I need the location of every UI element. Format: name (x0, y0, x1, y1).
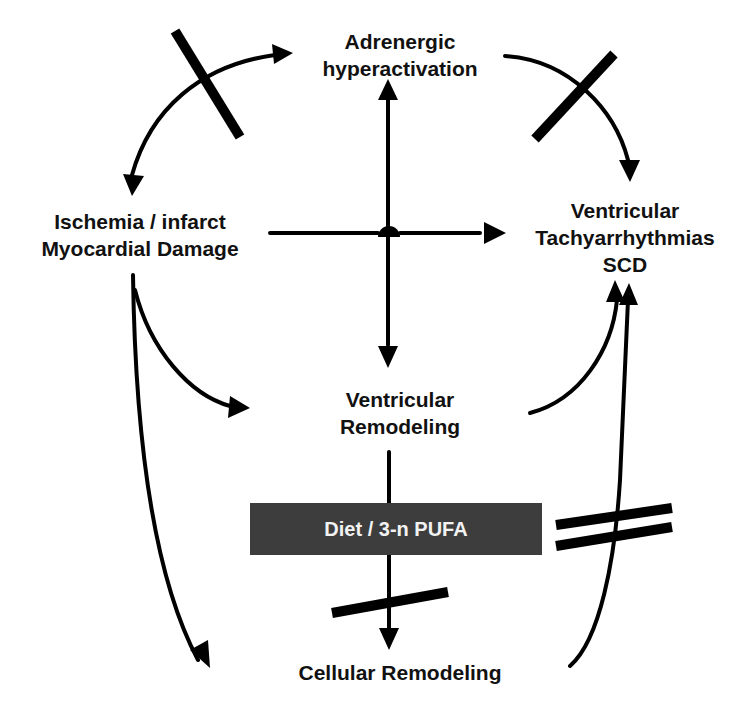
node-vt-line3: SCD (505, 251, 745, 278)
node-vremodel-line2: Remodeling (290, 413, 510, 440)
node-ischemia-infarct: Ischemia / infarct Myocardial Damage (10, 208, 270, 262)
node-vt-line2: Tachyarrhythmias (505, 224, 745, 251)
junction-semicircle-icon (378, 226, 400, 237)
node-cellular-remodeling: Cellular Remodeling (260, 659, 540, 686)
intervention-diet-box: Diet / 3-n PUFA (250, 503, 542, 555)
edge-vremodel-vt (530, 300, 617, 413)
node-adrenergic-hyperactivation: Adrenergic hyperactivation (290, 28, 510, 82)
block-bar-cellular-vt-1 (556, 508, 672, 525)
arrowhead-up-adrenergic (378, 79, 398, 100)
arrowhead-to-vt-top (619, 160, 640, 182)
node-vremodel-line1: Ventricular (290, 386, 510, 413)
intervention-label: Diet / 3-n PUFA (324, 518, 467, 541)
arrowheads (123, 44, 640, 668)
node-cellular-line1: Cellular Remodeling (260, 659, 540, 686)
arrowhead-down-cellular (379, 628, 399, 650)
node-adrenergic-line1: Adrenergic (290, 28, 510, 55)
arrowhead-to-ischemia (123, 174, 144, 196)
edge-ischemia-vremodel (135, 290, 230, 406)
node-ventricular-tachyarrhythmias: Ventricular Tachyarrhythmias SCD (505, 197, 745, 278)
node-ischemia-line1: Ischemia / infarct (10, 208, 270, 235)
block-bar-ischemia-adrenergic (175, 31, 240, 137)
arrowhead-cellular-to-vt (619, 283, 638, 305)
diagram-canvas (0, 0, 748, 702)
node-adrenergic-line2: hyperactivation (290, 55, 510, 82)
arrowhead-to-vremodel (228, 396, 250, 418)
node-ventricular-remodeling: Ventricular Remodeling (290, 386, 510, 440)
edge-ischemia-cellular (133, 275, 198, 660)
node-ischemia-line2: Myocardial Damage (10, 235, 270, 262)
node-vt-line1: Ventricular (505, 197, 745, 224)
arrowhead-right-vt (484, 222, 506, 244)
arrowhead-down-vremodel (378, 346, 398, 368)
